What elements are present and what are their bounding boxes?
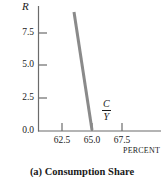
- x-tick-label-67-5: 67.5: [105, 136, 139, 146]
- series-label-numerator: C: [102, 99, 111, 109]
- series-label-c-over-y: C Y: [102, 99, 111, 122]
- y-tick-label-wrap-2-5: 2.5: [6, 93, 34, 103]
- series-line-consumption-share: [74, 12, 92, 130]
- figure-caption: (a) Consumption Share: [0, 166, 164, 178]
- y-tick-label-wrap-0-0: 0.0: [6, 126, 34, 136]
- x-tick-label-62-5: 62.5: [45, 136, 79, 146]
- y-tick-label-wrap-7-5: 7.5: [6, 28, 34, 38]
- series-label-denominator: Y: [102, 112, 111, 122]
- y-axis-label: R: [22, 1, 29, 12]
- y-tick-label-2-5: 2.5: [8, 93, 34, 103]
- x-tick-label-65-0: 65.0: [75, 136, 109, 146]
- y-tick-label-7-5: 7.5: [8, 28, 34, 38]
- y-tick-label-5-0: 5.0: [8, 60, 34, 70]
- y-tick-label-wrap-5-0: 5.0: [6, 60, 34, 70]
- plot-area: R 7.5 5.0 2.5 0.0 62.5 65.0 67.5 PERCENT…: [0, 0, 164, 165]
- x-axis-label: PERCENT: [123, 147, 160, 155]
- figure-consumption-share: R 7.5 5.0 2.5 0.0 62.5 65.0 67.5 PERCENT…: [0, 0, 164, 182]
- y-tick-label-0-0: 0.0: [8, 126, 34, 136]
